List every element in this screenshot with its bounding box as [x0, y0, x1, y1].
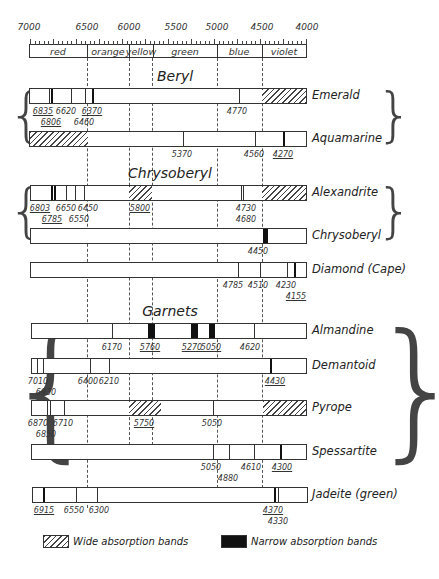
scale-minor-tick: [150, 41, 151, 45]
group-title-garnets: Garnets: [142, 303, 197, 319]
absorption-line: [294, 263, 296, 277]
scale-minor-tick: [67, 41, 68, 45]
wavelength-label: 4155: [286, 292, 306, 301]
wavelength-label: 6170: [102, 343, 122, 352]
scale-minor-tick: [48, 41, 49, 45]
scale-minor-tick: [232, 41, 233, 45]
absorption-line: [47, 401, 48, 415]
scale-minor-tick: [260, 39, 261, 45]
wavelength-label: 4330: [268, 517, 288, 526]
scale-minor-tick: [196, 41, 197, 45]
wide-absorption-band: [262, 89, 306, 103]
group-title-chrysoberyl: Chrysoberyl: [128, 165, 212, 181]
scale-minor-tick: [223, 41, 224, 45]
scale-minor-tick: [81, 41, 82, 45]
wavelength-label: 6300: [89, 506, 109, 515]
scale-minor-tick: [145, 39, 146, 45]
band-divider: [217, 44, 218, 58]
absorption-line: [75, 186, 76, 200]
wide-absorption-band: [30, 132, 88, 146]
wavelength-label: 6460: [74, 118, 94, 127]
scale-minor-tick: [177, 41, 178, 45]
scale-minor-tick: [39, 41, 40, 45]
narrow-absorption-band: [209, 324, 215, 338]
spectrum-bar-spessartite: [31, 444, 307, 460]
scale-minor-tick: [186, 41, 187, 45]
group-title-beryl: Beryl: [157, 68, 193, 84]
wavelength-label: 6930: [36, 388, 56, 397]
wavelength-label: 4680: [236, 215, 256, 224]
wavelength-label: 5050: [201, 343, 221, 352]
scale-minor-tick: [154, 41, 155, 45]
wavelength-label: 4510: [248, 281, 268, 290]
scale-bar: [29, 44, 307, 58]
legend-wide-label: Wide absorption bands: [73, 536, 188, 547]
absorption-line: [54, 186, 56, 200]
scale-tick-label: 7000: [18, 22, 41, 32]
absorption-line: [280, 445, 282, 459]
absorption-line: [229, 445, 230, 459]
spectrum-bar-diamond-cape: [30, 262, 307, 278]
wavelength-label: 4560: [244, 150, 264, 159]
absorption-line: [278, 488, 279, 502]
absorption-line: [287, 263, 288, 277]
wavelength-label: 7010: [28, 377, 48, 386]
scale-minor-tick: [209, 41, 210, 45]
wavelength-label: 6370: [82, 107, 102, 116]
wavelength-label: 4430: [265, 377, 285, 386]
wavelength-label: 5750: [134, 419, 154, 428]
legend-narrow-label: Narrow absorption bands: [251, 536, 377, 547]
scale-minor-tick: [122, 39, 123, 45]
spectrum-bar-aquamarine: [29, 131, 307, 147]
scale-minor-tick: [117, 41, 118, 45]
wide-absorption-band: [263, 401, 306, 415]
wide-absorption-band: [129, 401, 161, 415]
absorption-line: [49, 89, 50, 103]
wavelength-label: 4730: [236, 204, 256, 213]
absorption-line: [43, 488, 45, 502]
scale-minor-tick: [35, 41, 36, 45]
wavelength-label: 4880: [218, 474, 238, 483]
wavelength-label: 4370: [263, 506, 283, 515]
band-red: red: [50, 46, 66, 57]
absorption-line: [71, 89, 72, 103]
absorption-line: [255, 132, 256, 146]
wavelength-label: 4610: [241, 463, 261, 472]
spectrum-bar-chrysoberyl: [30, 228, 307, 244]
scale-minor-tick: [127, 41, 128, 45]
scale-minor-tick: [251, 41, 252, 45]
wavelength-label: 6550: [64, 506, 84, 515]
wavelength-label: 6400: [78, 377, 98, 386]
right-brace-chrysoberyl: }: [376, 182, 413, 240]
spectrum-bar-alexandrite: [30, 185, 307, 201]
scale-minor-tick: [269, 41, 270, 45]
absorption-line: [213, 445, 214, 459]
row-label-diamond-cape: Diamond (Cape): [312, 262, 406, 276]
scale-minor-tick: [214, 39, 215, 45]
spectrum-bar-demantoid: [31, 358, 307, 374]
wavelength-label: 4450: [248, 247, 268, 256]
band-blue: blue: [229, 46, 250, 57]
scale-minor-tick: [288, 41, 289, 45]
wavelength-label: 6785: [42, 215, 62, 224]
wavelength-label: 6835: [33, 107, 53, 116]
band-divider: [262, 44, 263, 58]
scale-minor-tick: [237, 39, 238, 45]
wide-absorption-band: [262, 186, 306, 200]
row-label-emerald: Emerald: [312, 88, 360, 102]
absorption-line: [85, 89, 86, 103]
scale-minor-tick: [228, 41, 229, 45]
scale-tick-label: 5000: [206, 22, 229, 32]
wavelength-label: 4270: [273, 150, 293, 159]
absorption-line: [238, 263, 239, 277]
scale-minor-tick: [255, 41, 256, 45]
scale-minor-tick: [71, 41, 72, 45]
scale-minor-tick: [191, 39, 192, 45]
absorption-line: [92, 89, 94, 103]
scale-minor-tick: [131, 41, 132, 45]
row-label-spessartite: Spessartite: [312, 444, 377, 458]
row-label-aquamarine: Aquamarine: [312, 131, 382, 145]
hatch-swatch-icon: [43, 535, 69, 548]
wavelength-label: 4620: [240, 343, 260, 352]
absorption-line: [37, 359, 38, 373]
